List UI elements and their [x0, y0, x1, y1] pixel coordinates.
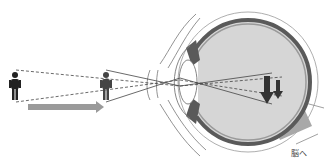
approach-arrow-icon	[28, 101, 104, 113]
person-far-icon	[9, 72, 21, 100]
eyeball	[186, 20, 310, 144]
eye-diagram	[0, 0, 324, 168]
person-near-icon	[100, 72, 112, 100]
to-brain-label: 脳へ	[291, 147, 307, 158]
